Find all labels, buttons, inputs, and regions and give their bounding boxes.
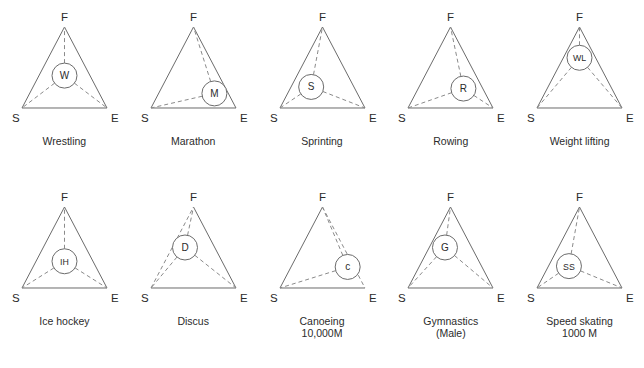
panel-caption-discus: Discus (177, 315, 209, 327)
vertex-label-s: S (398, 292, 406, 304)
spoke-to-s (151, 96, 202, 108)
panel-marathon[interactable]: MSEFMarathon (129, 0, 258, 180)
caption-line1: Rowing (433, 135, 468, 147)
vertex-label-f: F (61, 11, 68, 23)
vertex-label-f: F (319, 191, 326, 203)
diagram-rowing: RSEF (386, 0, 515, 132)
sport-node-label: IH (60, 257, 69, 267)
sport-node-label: SS (563, 262, 575, 272)
spoke-to-e (455, 256, 493, 288)
triangle-edge-sf (280, 207, 322, 288)
vertex-label-e: E (497, 112, 505, 124)
vertex-label-s: S (141, 292, 149, 304)
triangle-edge-sf (151, 27, 193, 108)
caption-line1: Gymnastics (423, 315, 478, 327)
spoke-to-s (22, 83, 55, 108)
caption-line1: Discus (177, 315, 209, 327)
panel-canoeing[interactable]: cSEFCanoeing10,000M (258, 180, 387, 368)
diagram-sprinting: SSEF (258, 0, 387, 132)
caption-line2: 1000 M (546, 327, 613, 339)
panel-caption-speed-skating: Speed skating1000 M (546, 315, 613, 339)
vertex-label-e: E (497, 292, 505, 304)
vertex-label-f: F (190, 11, 197, 23)
vertex-label-f: F (61, 191, 68, 203)
panel-weight-lifting[interactable]: WLSEFWeight lifting (515, 0, 644, 180)
vertex-label-e: E (626, 112, 634, 124)
caption-line1: Weight lifting (550, 135, 610, 147)
sport-node-label: WL (573, 53, 586, 63)
caption-line2: 10,000M (300, 327, 345, 339)
caption-line1: Ice hockey (39, 315, 89, 327)
caption-line2: (Male) (423, 327, 478, 339)
triangle-edge-fe (64, 207, 106, 288)
caption-line1: Canoeing (300, 315, 345, 327)
panel-rowing[interactable]: RSEFRowing (386, 0, 515, 180)
vertex-label-s: S (527, 292, 535, 304)
spoke-to-f (451, 27, 461, 76)
spoke-to-e (74, 83, 107, 108)
vertex-label-f: F (576, 11, 583, 23)
spoke-to-f (313, 27, 322, 75)
ternary-diagram-figure: WSEFWrestlingMSEFMarathonSSEFSprintingRS… (0, 0, 644, 368)
caption-line1: Speed skating (546, 315, 613, 327)
diagram-wrestling: WSEF (0, 0, 129, 132)
spoke-to-e (322, 91, 364, 108)
panel-caption-weight-lifting: Weight lifting (550, 135, 610, 147)
sport-node-label: M (210, 88, 218, 99)
diagram-gymnastics: GSEF (386, 180, 515, 312)
vertex-label-s: S (12, 112, 20, 124)
spoke-to-e (581, 271, 622, 288)
triangle-edge-fe (322, 27, 364, 108)
vertex-label-s: S (141, 112, 149, 124)
panel-wrestling[interactable]: WSEFWrestling (0, 0, 129, 180)
sport-node-label: R (460, 83, 467, 94)
vertex-label-s: S (527, 112, 535, 124)
spoke-to-e (588, 67, 622, 108)
diagram-weight-lifting: WLSEF (515, 0, 644, 132)
vertex-label-s: S (12, 292, 20, 304)
vertex-label-s: S (398, 112, 406, 124)
triangle-edge-sf (22, 207, 64, 288)
spoke-to-f (187, 207, 193, 235)
vertex-label-e: E (240, 292, 248, 304)
vertex-label-f: F (576, 191, 583, 203)
panel-caption-gymnastics: Gymnastics(Male) (423, 315, 478, 339)
diagram-ice-hockey: IHSEF (0, 180, 129, 312)
vertex-label-f: F (447, 191, 454, 203)
sport-node-label: G (441, 242, 449, 253)
panel-caption-canoeing: Canoeing10,000M (300, 315, 345, 339)
panel-caption-sprinting: Sprinting (301, 135, 342, 147)
caption-line1: Wrestling (43, 135, 87, 147)
vertex-label-e: E (369, 292, 377, 304)
panel-sprinting[interactable]: SSEFSprinting (258, 0, 387, 180)
panel-speed-skating[interactable]: SSSEFSpeed skating1000 M (515, 180, 644, 368)
sport-node-label: c (345, 261, 350, 272)
spoke-to-s (537, 273, 559, 288)
triangle-edge-fe (193, 207, 235, 288)
spoke-to-e (195, 255, 236, 288)
caption-line1: Sprinting (301, 135, 342, 147)
panel-caption-wrestling: Wrestling (43, 135, 87, 147)
vertex-label-e: E (111, 112, 119, 124)
diagram-speed-skating: SSSEF (515, 180, 644, 312)
vertex-label-s: S (270, 292, 278, 304)
panel-caption-marathon: Marathon (171, 135, 215, 147)
vertex-label-e: E (626, 292, 634, 304)
vertex-label-e: E (240, 112, 248, 124)
spoke-to-s (537, 67, 571, 108)
panel-caption-ice-hockey: Ice hockey (39, 315, 89, 327)
vertex-label-f: F (447, 11, 454, 23)
spoke-to-s (280, 94, 301, 108)
vertex-label-e: E (111, 292, 119, 304)
panel-gymnastics[interactable]: GSEFGymnastics(Male) (386, 180, 515, 368)
vertex-label-f: F (190, 191, 197, 203)
spoke-to-f (322, 207, 342, 255)
panel-caption-rowing: Rowing (433, 135, 468, 147)
spoke-to-s (280, 271, 336, 288)
panel-ice-hockey[interactable]: IHSEFIce hockey (0, 180, 129, 368)
sport-node-label: S (307, 81, 314, 92)
spoke-to-s (151, 257, 177, 288)
panel-discus[interactable]: DSEFDiscus (129, 180, 258, 368)
sport-node-label: W (60, 70, 70, 81)
caption-line1: Marathon (171, 135, 215, 147)
